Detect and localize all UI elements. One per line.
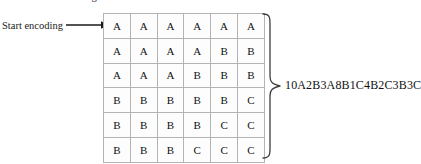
grid-cell: B bbox=[211, 63, 238, 88]
grid-cell: B bbox=[104, 88, 131, 113]
grid-cell: A bbox=[104, 38, 131, 63]
grid-cell: A bbox=[130, 14, 157, 39]
grid-cell: A bbox=[130, 38, 157, 63]
grid-cell: B bbox=[211, 38, 238, 63]
grid-cell: B bbox=[130, 137, 157, 162]
curly-brace-icon bbox=[261, 12, 283, 160]
grid-cell: A bbox=[157, 38, 184, 63]
table-row: A A A B B B bbox=[104, 63, 265, 88]
grid-cell: B bbox=[104, 137, 131, 162]
table-row: A A A A B B bbox=[104, 38, 265, 63]
grid-cell: B bbox=[157, 88, 184, 113]
grid-cell: A bbox=[104, 14, 131, 39]
grid-cell: A bbox=[130, 63, 157, 88]
grid-cell: B bbox=[157, 113, 184, 138]
grid-cell: A bbox=[157, 63, 184, 88]
grid-cell: A bbox=[211, 14, 238, 39]
grid-cell: B bbox=[184, 113, 211, 138]
grid-cell: B bbox=[130, 113, 157, 138]
grid-cell: C bbox=[211, 113, 238, 138]
letter-grid-body: A A A A A A A A A A B B A A A B B B B B … bbox=[104, 14, 265, 163]
table-row: A A A A A A bbox=[104, 14, 265, 39]
grid-cell: A bbox=[184, 38, 211, 63]
grid-cell: B bbox=[104, 113, 131, 138]
table-row: B B B B C C bbox=[104, 113, 265, 138]
start-encoding-annotation: Start encoding bbox=[2, 17, 110, 33]
start-encoding-label: Start encoding bbox=[2, 20, 63, 31]
grid-cell: C bbox=[211, 137, 238, 162]
figure-caption: Run-length codes bbox=[57, 0, 132, 2]
grid-cell: B bbox=[184, 63, 211, 88]
grid-cell: B bbox=[211, 88, 238, 113]
grid-cell: B bbox=[157, 137, 184, 162]
grid-cell: A bbox=[157, 14, 184, 39]
grid-cell: B bbox=[130, 88, 157, 113]
table-row: B B B C C C bbox=[104, 137, 265, 162]
letter-grid: A A A A A A A A A A B B A A A B B B B B … bbox=[103, 13, 265, 163]
grid-cell: B bbox=[184, 88, 211, 113]
table-row: B B B B B C bbox=[104, 88, 265, 113]
grid-cell: C bbox=[184, 137, 211, 162]
grid-cell: A bbox=[184, 14, 211, 39]
encoded-string: 10A2B3A8B1C4B2C3B3C bbox=[285, 78, 421, 93]
grid-cell: A bbox=[104, 63, 131, 88]
